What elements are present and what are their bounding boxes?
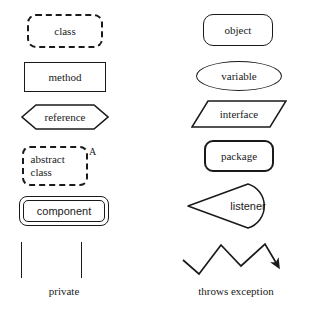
component-label: component — [37, 205, 91, 218]
zigzag-arrow-icon — [181, 238, 293, 280]
abstract-class-shape: abstract class — [22, 146, 88, 186]
interface-shape: interface — [191, 100, 287, 128]
variable-label: variable — [221, 70, 256, 83]
reference-shape: reference — [21, 103, 109, 131]
reference-label: reference — [21, 111, 109, 124]
private-bar-right — [81, 242, 82, 278]
package-shape: package — [204, 140, 274, 172]
throws-exception-label: throws exception — [176, 285, 296, 298]
class-label: class — [54, 25, 75, 38]
interface-label: interface — [191, 108, 287, 121]
private-label: private — [19, 285, 109, 298]
abstract-class-label-line2: class — [26, 166, 85, 179]
notation-legend-diagram: class method reference abstract class A … — [0, 0, 310, 310]
component-inner-border: component — [23, 200, 105, 222]
method-shape: method — [24, 62, 106, 92]
component-shape: component — [19, 196, 109, 226]
class-shape: class — [27, 14, 103, 48]
listener-label: listener — [222, 182, 274, 230]
listener-shape: listener — [186, 182, 286, 230]
package-label: package — [221, 150, 257, 163]
object-shape: object — [203, 14, 273, 46]
abstract-marker-label: A — [89, 146, 96, 157]
throws-exception-zigzag-arrow — [181, 238, 293, 280]
method-label: method — [49, 71, 82, 84]
object-label: object — [225, 24, 252, 37]
abstract-class-label-line1: abstract — [26, 153, 85, 166]
variable-shape: variable — [196, 61, 282, 91]
private-bar-left — [21, 242, 22, 278]
private-bars-shape — [19, 242, 109, 278]
